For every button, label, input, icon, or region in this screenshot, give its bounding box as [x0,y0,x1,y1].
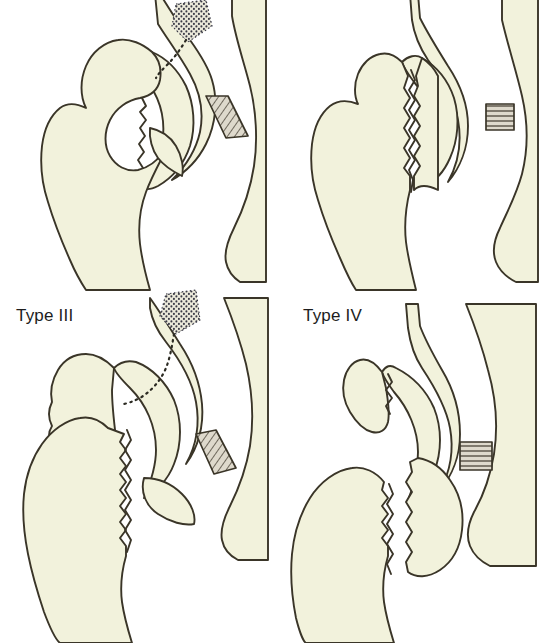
panel-1 [0,0,270,290]
panel-4 [270,290,539,643]
panel-3-drawing [0,290,270,643]
panel-3 [0,290,270,643]
panel-4-label: Type IV [303,306,362,326]
panel-2 [270,0,539,290]
panel-1-drawing [0,0,270,290]
hatched-ligament-band [460,442,492,470]
panel-4-drawing [270,290,539,643]
figure-caption [0,634,539,643]
hatched-ligament-band [486,104,514,130]
panel-3-label: Type III [16,306,73,326]
figure-canvas: Type III Type IV [0,0,539,643]
panel-2-drawing [270,0,539,290]
hatched-ligament-band [196,430,236,474]
